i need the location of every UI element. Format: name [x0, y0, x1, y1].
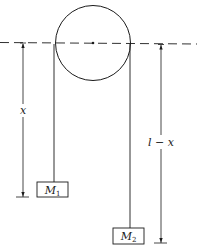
- right-length-label: l − x: [148, 136, 175, 149]
- atwood-diagram: M1 M2 x l − x: [0, 0, 197, 251]
- mass-m2-label: M2: [120, 230, 137, 244]
- right-dimension: l − x: [148, 45, 175, 244]
- right-dimension-top-arrow: [159, 45, 162, 50]
- right-dimension-bottom-arrow: [159, 238, 162, 243]
- left-dimension: x: [16, 43, 29, 197]
- reference-dashed-line: [0, 43, 197, 45]
- left-dimension-top-arrow: [21, 44, 24, 49]
- mass-m1-label: M1: [44, 184, 61, 198]
- mass-m2: M2: [113, 228, 144, 244]
- mass-m1: M1: [37, 182, 68, 198]
- left-dimension-bottom-arrow: [21, 192, 24, 197]
- pulley-axle: [92, 42, 95, 45]
- left-length-label: x: [20, 104, 27, 117]
